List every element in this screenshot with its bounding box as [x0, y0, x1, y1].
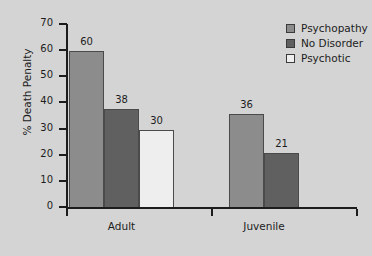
legend-item: Psychopathy [286, 21, 368, 36]
bar-value-label: 30 [139, 115, 174, 126]
bar [229, 114, 264, 208]
bar [139, 130, 174, 208]
x-axis-tick-mark [211, 209, 213, 216]
bar-value-label: 38 [104, 94, 139, 105]
bar-chart: % Death Penalty 010203040506070 60383036… [0, 0, 372, 256]
legend-swatch [286, 24, 295, 33]
bar [69, 51, 104, 208]
legend-label: No Disorder [301, 38, 363, 49]
legend-item: Psychotic [286, 51, 368, 66]
x-axis-group-label: Juvenile [219, 220, 309, 232]
bar-value-label: 36 [229, 99, 264, 110]
x-axis-tick-mark [356, 209, 358, 216]
bar [264, 153, 299, 208]
legend-item: No Disorder [286, 36, 368, 51]
x-axis-tick-mark [66, 209, 68, 216]
bar-value-label: 60 [69, 36, 104, 47]
legend-swatch [286, 54, 295, 63]
legend-swatch [286, 39, 295, 48]
legend-label: Psychotic [301, 53, 351, 64]
chart-legend: PsychopathyNo DisorderPsychotic [286, 21, 368, 66]
legend-label: Psychopathy [301, 23, 368, 34]
bar-value-label: 21 [264, 138, 299, 149]
bar [104, 109, 139, 208]
x-axis-group-label: Adult [77, 220, 167, 232]
